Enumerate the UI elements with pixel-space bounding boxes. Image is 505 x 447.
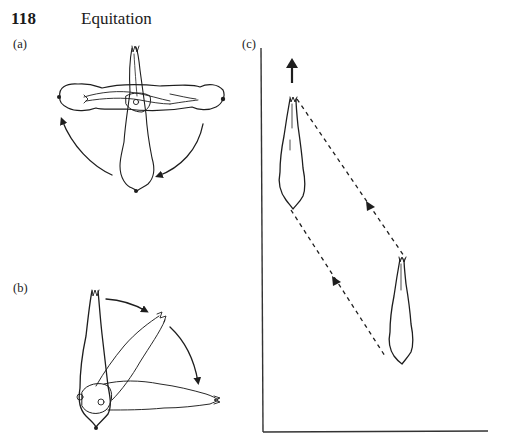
panel-a-drawing xyxy=(57,46,225,193)
dashed-path-front xyxy=(297,99,404,256)
arena-wall-vertical xyxy=(261,48,263,432)
horse-bottom-icon xyxy=(389,257,413,364)
panel-b-drawing xyxy=(77,290,220,430)
rotation-arrow-left-icon xyxy=(62,120,112,175)
figure-illustration xyxy=(0,0,505,447)
panel-c-drawing xyxy=(261,48,488,432)
rotation-arrow-lower-icon xyxy=(170,327,198,382)
horse-top-icon xyxy=(279,97,305,209)
triangle-arrowhead-icon xyxy=(366,201,375,211)
horse-vertical-icon xyxy=(120,46,154,193)
rotation-arrow-upper-icon xyxy=(106,299,146,311)
horse-horizontal-icon xyxy=(57,84,225,111)
horse-diagonal-icon xyxy=(96,312,166,400)
horse-vertical-icon xyxy=(77,290,112,430)
horse-horizontal-icon xyxy=(104,381,220,410)
rotation-arrow-right-icon xyxy=(158,124,203,176)
arrow-up-icon xyxy=(286,58,298,83)
arena-wall-horizontal xyxy=(263,431,488,432)
